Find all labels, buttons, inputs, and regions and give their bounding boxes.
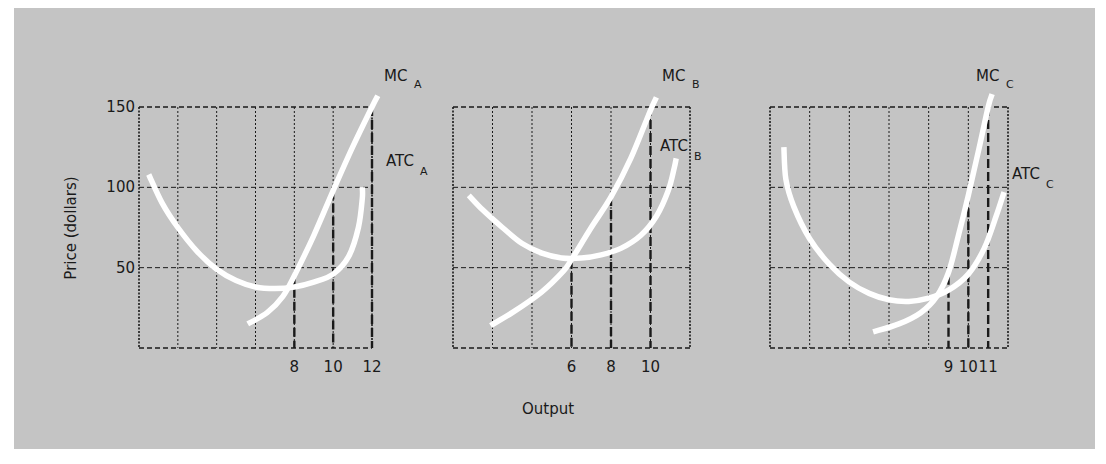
mc-c-subscript: C: [1006, 78, 1014, 91]
y-tick-label: 50: [116, 259, 135, 277]
x-tick-label: 9: [944, 358, 954, 376]
mc-b-label: MC: [662, 67, 685, 85]
atc-b-curve: [469, 158, 676, 258]
x-tick-label: 11: [979, 358, 998, 376]
chart-canvas: Price (dollars) Output 5010015081012MCAA…: [0, 0, 1106, 464]
mc-b-subscript: B: [692, 78, 700, 91]
atc-b-label: ATC: [660, 137, 688, 155]
x-tick-label: 8: [290, 358, 300, 376]
x-tick-label: 12: [362, 358, 381, 376]
x-tick-label: 10: [959, 358, 978, 376]
y-tick-label: 150: [106, 98, 135, 116]
y-axis-title: Price (dollars): [62, 176, 80, 279]
atc-b-subscript: B: [694, 150, 702, 163]
x-tick-label: 10: [324, 358, 343, 376]
atc-c-label: ATC: [1012, 165, 1040, 183]
x-axis-title: Output: [522, 400, 574, 418]
mc-a-label: MC: [384, 67, 407, 85]
atc-c-curve: [784, 147, 1004, 301]
x-tick-label: 6: [567, 358, 577, 376]
y-tick-label: 100: [106, 178, 135, 196]
atc-c-subscript: C: [1046, 178, 1054, 191]
atc-a-label: ATC: [386, 152, 414, 170]
atc-a-subscript: A: [420, 165, 428, 178]
x-tick-label: 10: [641, 358, 660, 376]
mc-c-label: MC: [976, 67, 999, 85]
mc-b-curve: [491, 97, 657, 325]
x-tick-label: 8: [606, 358, 616, 376]
mc-a-subscript: A: [414, 78, 422, 91]
